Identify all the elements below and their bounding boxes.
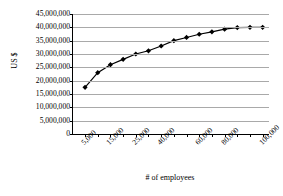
x-axis-tick-label: 5,000 <box>80 129 98 147</box>
x-axis-tick-label: 25,000 <box>131 126 151 146</box>
x-axis-tick-label: 15,000 <box>105 126 125 146</box>
x-axis-title: # of employees <box>72 173 268 182</box>
x-axis-tick-label: 80,000 <box>220 126 240 146</box>
x-axis-tick-labels: 5,00015,00025,00040,00060,00080,000100,0… <box>0 0 283 196</box>
x-axis-tick-label: 40,000 <box>156 126 176 146</box>
x-axis-tick-label: 100,000 <box>258 124 281 147</box>
chart-container: US $ 45,000,00040,000,00035,000,00030,00… <box>0 0 283 196</box>
x-axis-tick-label: 60,000 <box>194 126 214 146</box>
